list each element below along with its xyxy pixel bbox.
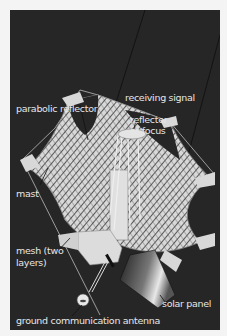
satellite-bus	[58, 230, 122, 292]
label-mast: mast	[16, 188, 39, 199]
label-parabolic-reflector: parabolic reflector	[16, 103, 97, 114]
ground-antenna	[77, 294, 89, 306]
label-ground-communication-antenna: ground communication antenna	[16, 315, 160, 326]
diagram-panel: parabolic reflector receiving signal ref…	[10, 10, 220, 330]
label-mesh-line1: mesh (two	[16, 245, 63, 256]
label-reflector-at-focus-line2: at focus	[130, 125, 166, 136]
label-reflector-at-focus-line1: reflector	[130, 114, 167, 125]
label-solar-panel: solar panel	[162, 298, 211, 309]
label-mesh-line2: layers)	[16, 257, 46, 268]
label-receiving-signal: receiving signal	[125, 92, 195, 103]
satellite-illustration	[10, 10, 220, 330]
